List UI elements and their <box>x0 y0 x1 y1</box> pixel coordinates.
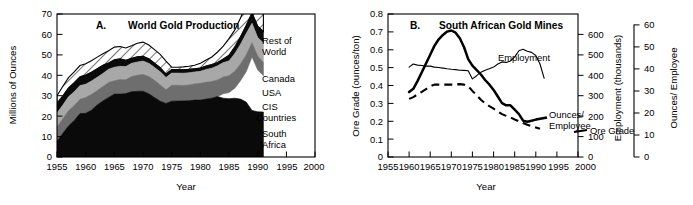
panel-b-svg: 0 0.1 0.2 0.3 0.4 0.5 0.6 0.7 0.8 <box>346 0 693 205</box>
label-rest-of-world-line2: World <box>262 46 286 57</box>
panel-b-x-tick-1965: 1965 <box>420 161 441 172</box>
panel-b-emp-tick-400: 400 <box>588 70 604 81</box>
panel-a-y-tick-labels: 0 10 20 30 40 50 60 70 <box>42 8 52 162</box>
panel-b-x-tick-1970: 1970 <box>441 161 462 172</box>
panel-b-ope-tick-40: 40 <box>644 63 654 74</box>
panel-b-left-y-tick-labels: 0 0.1 0.2 0.3 0.4 0.5 0.6 0.7 0.8 <box>370 8 383 162</box>
panel-b-right-axis-title-ounces-employee: Ounces/ Employee <box>668 47 679 128</box>
panel-a-letter: A. <box>96 20 106 31</box>
panel-b-ope-tick-60: 60 <box>644 19 654 30</box>
panel-b-letter: B. <box>410 20 420 31</box>
panel-b-emp-tick-600: 600 <box>588 29 604 40</box>
annotation-ore-grade: Ore Grade <box>590 125 634 136</box>
panel-b-x-tick-1995: 1995 <box>548 161 569 172</box>
panel-b-left-axis-title: Ore Grade (ounces/ton) <box>350 35 361 136</box>
panel-b-x-tick-1985: 1985 <box>504 161 525 172</box>
panel-a-y-tick-10: 10 <box>42 131 52 142</box>
panel-b-title: South African Gold Mines <box>439 20 563 31</box>
panel-b-left-tick-0.2: 0.2 <box>370 116 383 127</box>
panel-b-ope-tick-10: 10 <box>644 129 654 140</box>
panel-b-x-tick-2000: 2000 <box>575 161 596 172</box>
figure-container: 0 10 20 30 40 50 60 70 <box>0 0 693 205</box>
panel-a-y-tick-40: 40 <box>42 70 52 81</box>
panel-b-south-african-gold-mines: 0 0.1 0.2 0.3 0.4 0.5 0.6 0.7 0.8 <box>346 0 693 205</box>
panel-a-x-tick-2000: 2000 <box>304 161 325 172</box>
panel-a-x-tick-1995: 1995 <box>277 161 298 172</box>
annotation-ounces-employee-l1: Ounces/ <box>549 109 584 120</box>
panel-b-emp-tick-500: 500 <box>588 49 604 60</box>
panel-b-emp-tick-0: 0 <box>588 151 593 162</box>
panel-a-x-axis-title: Year <box>176 181 196 192</box>
panel-a-x-tick-1970: 1970 <box>133 161 154 172</box>
label-south-africa-line2: Africa <box>262 139 287 150</box>
panel-b-left-tick-0.3: 0.3 <box>370 98 383 109</box>
label-cis-line1: CIS <box>262 101 278 112</box>
panel-b-emp-tick-300: 300 <box>588 90 604 101</box>
label-usa: USA <box>262 87 282 98</box>
panel-b-left-tick-0.7: 0.7 <box>370 26 383 37</box>
panel-a-x-tick-1955: 1955 <box>47 161 68 172</box>
panel-b-left-tick-0.8: 0.8 <box>370 8 383 19</box>
panel-b-x-tick-1960: 1960 <box>399 161 420 172</box>
panel-a-x-tick-labels: 1955 1960 1965 1970 1975 1980 1985 1990 … <box>47 161 325 172</box>
panel-a-y-tick-60: 60 <box>42 29 52 40</box>
panel-b-left-tick-0.5: 0.5 <box>370 62 383 73</box>
panel-b-right-axis-employment: 0 100 200 300 400 500 600 <box>578 29 604 163</box>
panel-b-left-tick-0.6: 0.6 <box>370 44 383 55</box>
panel-a-y-tick-50: 50 <box>42 49 52 60</box>
label-south-africa-line1: South <box>262 128 287 139</box>
panel-a-world-gold-production: 0 10 20 30 40 50 60 70 <box>0 0 347 205</box>
panel-b-ope-tick-20: 20 <box>644 107 654 118</box>
panel-b-left-tick-0.4: 0.4 <box>370 80 383 91</box>
panel-b-x-tick-labels: 1955 1960 1965 1970 1975 1980 1985 1990 … <box>378 161 596 172</box>
panel-a-x-tick-1975: 1975 <box>161 161 182 172</box>
panel-b-right-axis-ounces-employee: 0 10 20 30 40 50 60 <box>634 19 654 162</box>
annotation-employment: Employment <box>498 52 550 63</box>
panel-b-x-tick-1975: 1975 <box>462 161 483 172</box>
panel-a-y-axis-title: Millions of Ounces <box>7 46 18 125</box>
panel-b-left-tick-0.1: 0.1 <box>370 134 383 145</box>
panel-a-x-tick-1990: 1990 <box>247 161 268 172</box>
annotation-ounces-employee-l2: Employee <box>549 120 591 131</box>
panel-a-title: World Gold Production <box>128 20 239 31</box>
panel-a-y-tick-20: 20 <box>42 111 52 122</box>
panel-a-x-tick-1965: 1965 <box>104 161 125 172</box>
panel-b-ope-tick-50: 50 <box>644 41 654 52</box>
panel-b-x-tick-1990: 1990 <box>525 161 546 172</box>
panel-a-y-tick-70: 70 <box>42 8 52 19</box>
panel-b-x-tick-1980: 1980 <box>483 161 504 172</box>
panel-a-svg: 0 10 20 30 40 50 60 70 <box>0 0 347 205</box>
panel-b-ope-tick-0: 0 <box>644 151 649 162</box>
label-canada: Canada <box>262 73 296 84</box>
label-rest-of-world-line1: Rest of <box>262 35 292 46</box>
panel-a-x-tick-1985: 1985 <box>219 161 240 172</box>
label-cis-line2: Countries <box>256 112 296 123</box>
panel-b-x-axis-title: Year <box>476 181 496 192</box>
panel-b-ope-tick-30: 30 <box>644 85 654 96</box>
panel-a-y-tick-30: 30 <box>42 90 52 101</box>
panel-b-x-tick-1955: 1955 <box>378 161 399 172</box>
panel-a-x-tick-1980: 1980 <box>190 161 211 172</box>
panel-a-x-tick-1960: 1960 <box>75 161 96 172</box>
